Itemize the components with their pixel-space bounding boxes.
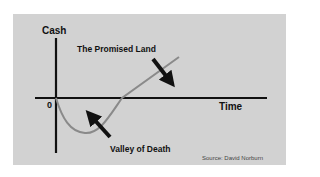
promised-land-label: The Promised Land bbox=[77, 44, 156, 54]
promised-land-arrow bbox=[153, 59, 170, 81]
origin-label: 0 bbox=[47, 100, 52, 110]
source-credit: Source: David Norburn bbox=[202, 155, 263, 161]
y-axis-label: Cash bbox=[42, 25, 66, 36]
x-axis-label: Time bbox=[219, 101, 242, 112]
valley-of-death-label: Valley of Death bbox=[110, 144, 170, 154]
